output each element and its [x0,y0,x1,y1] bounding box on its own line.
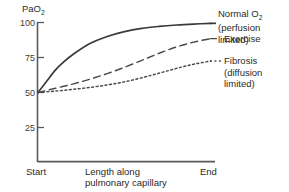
x-axis-end-label: End [200,167,217,178]
y-axis-title-base: PaO [22,3,41,14]
legend-fibrosis-line2: (diffusion limited) [224,67,262,90]
y-tick-label-50: 50 [13,88,35,98]
legend-normal-subscript: 2 [259,14,263,21]
legend-exercise-line1: Exercise [224,33,260,44]
x-axis-title-line1: Length along [85,166,140,177]
legend-label-exercise: Exercise [224,33,289,45]
y-tick-label-75: 75 [13,53,35,63]
series-line-fibrosis [38,61,211,93]
x-axis-title-line2: pulmonary capillary [85,177,167,188]
y-tick-label-25: 25 [13,123,35,133]
legend-label-fibrosis: Fibrosis(diffusion limited) [224,55,289,90]
x-axis-title: Length alongpulmonary capillary [85,167,167,189]
legend-fibrosis-line1: Fibrosis [224,55,257,66]
legend-normal-line1: Normal O [218,8,259,19]
y-axis-ticks [38,23,45,128]
chart-figure: PaO2 100 75 50 25 Start Length alongpulm… [0,0,289,192]
y-axis-title-subscript: 2 [41,9,45,16]
y-tick-label-100: 100 [13,18,35,28]
x-axis-start-label: Start [26,167,46,178]
y-axis-title: PaO2 [22,4,45,17]
data-series-group [38,23,211,92]
